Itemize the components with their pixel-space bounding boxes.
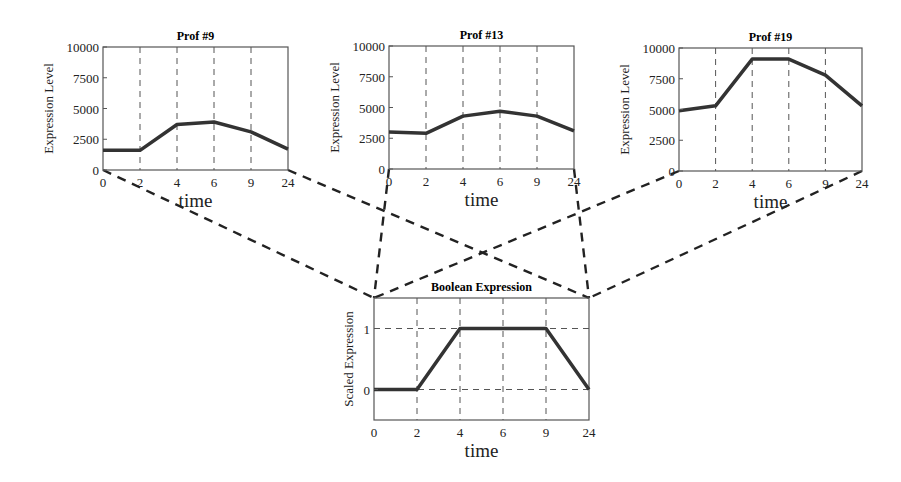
x-tick-label: 24 — [583, 425, 597, 440]
x-tick-label: 4 — [174, 175, 181, 190]
x-tick-label: 9 — [543, 425, 550, 440]
x-tick-label: 2 — [414, 425, 421, 440]
y-tick-label: 7500 — [359, 70, 385, 85]
x-tick-label: 24 — [568, 174, 582, 189]
y-axis-label: Expression Level — [327, 62, 342, 153]
x-tick-label: 24 — [282, 175, 296, 190]
chart-boolean-expression: Boolean Expression010246924timeScaled Ex… — [341, 280, 596, 461]
x-tick-label: 0 — [676, 176, 683, 191]
x-tick-label: 6 — [500, 425, 507, 440]
x-axis-label: time — [465, 440, 499, 461]
connector-line — [589, 171, 862, 298]
y-tick-label: 10000 — [67, 40, 100, 55]
y-tick-label: 5000 — [73, 102, 99, 117]
x-tick-label: 4 — [460, 174, 467, 189]
x-axis-label: time — [179, 190, 213, 211]
chart-title: Prof #9 — [177, 29, 214, 43]
y-axis-label: Expression Level — [617, 64, 632, 155]
y-tick-label: 5000 — [359, 101, 385, 116]
y-tick-label: 10000 — [353, 39, 386, 54]
data-line — [103, 122, 288, 150]
y-tick-label: 2500 — [649, 133, 675, 148]
data-line — [679, 59, 862, 111]
x-tick-label: 0 — [386, 174, 393, 189]
y-tick-label: 2500 — [359, 131, 385, 146]
x-tick-label: 4 — [457, 425, 464, 440]
x-tick-label: 24 — [856, 176, 870, 191]
y-tick-label: 0 — [669, 164, 676, 179]
chart-prof-9: Prof #90250050007500100000246924timeExpr… — [41, 29, 295, 211]
connector-line — [374, 171, 679, 298]
chart-title: Prof #19 — [749, 30, 792, 44]
axes-frame — [374, 298, 589, 420]
x-tick-label: 9 — [822, 176, 829, 191]
x-tick-label: 6 — [786, 176, 793, 191]
y-tick-label: 2500 — [73, 132, 99, 147]
x-tick-label: 9 — [534, 174, 541, 189]
y-tick-label: 7500 — [649, 72, 675, 87]
figure-canvas: Prof #90250050007500100000246924timeExpr… — [0, 0, 901, 482]
y-tick-label: 0 — [93, 163, 100, 178]
x-tick-label: 4 — [749, 176, 756, 191]
x-axis-label: time — [754, 191, 788, 212]
data-line — [389, 111, 574, 133]
connector-line — [288, 170, 589, 298]
x-tick-label: 0 — [100, 175, 107, 190]
y-axis-label: Expression Level — [41, 63, 56, 154]
y-tick-label: 10000 — [643, 41, 676, 56]
chart-title: Prof #13 — [460, 28, 503, 42]
chart-prof-13: Prof #130250050007500100000246924timeExp… — [327, 28, 581, 210]
x-tick-label: 2 — [423, 174, 430, 189]
x-axis-label: time — [465, 189, 499, 210]
data-line — [374, 329, 589, 390]
axes-frame — [679, 48, 862, 171]
y-tick-label: 0 — [379, 162, 386, 177]
x-tick-label: 2 — [137, 175, 144, 190]
y-tick-label: 0 — [364, 383, 371, 398]
y-tick-label: 7500 — [73, 71, 99, 86]
x-tick-label: 6 — [211, 175, 218, 190]
y-tick-label: 1 — [364, 322, 371, 337]
x-tick-label: 0 — [371, 425, 378, 440]
x-tick-label: 6 — [497, 174, 504, 189]
axes-frame — [389, 46, 574, 169]
chart-title: Boolean Expression — [431, 280, 532, 294]
x-tick-label: 2 — [712, 176, 719, 191]
y-tick-label: 5000 — [649, 103, 675, 118]
x-tick-label: 9 — [248, 175, 255, 190]
y-axis-label: Scaled Expression — [341, 311, 356, 407]
